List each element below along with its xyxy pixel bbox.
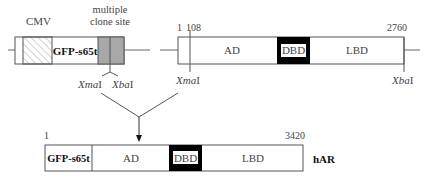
arrow-branch-left [101, 93, 139, 117]
mcs-tick-left [102, 72, 110, 76]
insert-start-label: 1 [177, 22, 182, 33]
insert-site-xbai: XbaI [391, 74, 414, 86]
construct-diagram: CMV GFP-s65t multiple clone site XmaI Xb… [0, 0, 429, 179]
arrow-branch-right [139, 93, 178, 117]
mcs-label-line1: multiple [93, 4, 128, 15]
fusion-ad-label: AD [123, 152, 139, 164]
vector-site-xbai: XbaI [111, 78, 134, 90]
cmv-promoter-region [23, 37, 52, 64]
arrow-head-icon [136, 135, 142, 142]
insert-map: 1 108 2760 AD DBD LBD XmaI XbaI [160, 22, 420, 86]
merge-arrow [101, 93, 178, 142]
insert-ad-label: AD [224, 44, 240, 56]
gfp-label: GFP-s65t [53, 45, 98, 57]
fusion-name-label: hAR [313, 153, 336, 165]
fusion-end-label: 3420 [285, 130, 305, 141]
fusion-construct: 1 3420 GFP-s65t AD DBD LBD hAR [44, 130, 336, 171]
insert-end-label: 2760 [387, 22, 407, 33]
insert-lbd-label: LBD [346, 44, 368, 56]
mcs-tick-right [110, 72, 118, 76]
insert-dbd-label: DBD [282, 44, 305, 56]
fusion-dbd-label: DBD [174, 152, 197, 164]
mcs-label-line2: clone site [90, 16, 130, 27]
insert-xma-position-label: 108 [186, 22, 201, 33]
fusion-gfp-label: GFP-s65t [47, 153, 90, 164]
fusion-lbd-label: LBD [242, 152, 264, 164]
cmv-label: CMV [26, 15, 51, 27]
insert-site-xmai: XmaI [175, 74, 200, 86]
vector-map: CMV GFP-s65t multiple clone site XmaI Xb… [8, 4, 150, 90]
fusion-start-label: 1 [44, 130, 49, 141]
vector-site-xmai: XmaI [77, 78, 102, 90]
multiple-clone-site-region [98, 37, 124, 64]
